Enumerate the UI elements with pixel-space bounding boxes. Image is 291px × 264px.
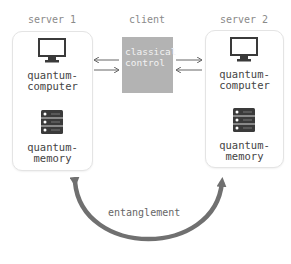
entanglement-label: entanglement bbox=[108, 207, 180, 218]
connections-layer bbox=[0, 0, 291, 264]
